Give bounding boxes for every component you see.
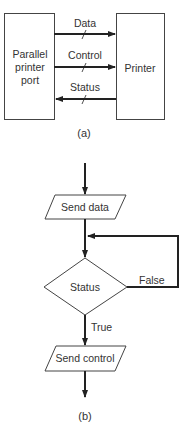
figure-a: Parallel printer port Printer Data Contr… (5, 14, 165, 140)
control-signal-label: Control (68, 49, 102, 61)
caption-a: (a) (77, 127, 90, 139)
status-decision-label: Status (70, 281, 100, 293)
figure-b: Send data Status False True Send control… (44, 163, 178, 422)
parallel-port-label-line3: port (21, 74, 39, 86)
printer-label: Printer (125, 62, 156, 74)
data-signal: Data (54, 17, 115, 39)
data-signal-label: Data (74, 17, 96, 29)
send-data-label: Send data (61, 201, 109, 213)
send-control-label: Send control (56, 352, 115, 364)
diagram-canvas: Parallel printer port Printer Data Contr… (0, 0, 185, 427)
status-signal: Status (56, 81, 116, 104)
parallel-port-label-line1: Parallel (12, 48, 47, 60)
false-branch-label: False (139, 274, 165, 286)
status-signal-label: Status (70, 81, 100, 93)
caption-b: (b) (78, 410, 91, 422)
control-signal: Control (54, 49, 115, 72)
parallel-port-label-line2: printer (15, 61, 45, 73)
true-branch-label: True (91, 321, 112, 333)
